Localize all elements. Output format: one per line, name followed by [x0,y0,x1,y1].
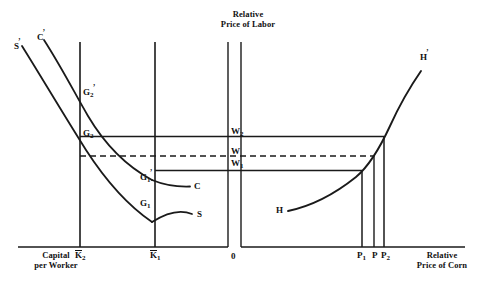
x-tick-label-K2: K2 [75,250,86,260]
bottom-left-axis-title-line1: Capital [42,250,70,260]
curve-label-C-text: C [194,181,201,191]
curve-label-S: S [197,209,202,219]
curve-S [152,212,192,222]
x-tick-label-K1: K1 [150,250,161,260]
top-axis-title-line1: Relative [233,9,264,19]
curve-C [152,180,190,187]
economics-diagram: Relative Price of Labor Capital per Work… [0,0,481,289]
x-tick-label-P1: P1 [357,250,366,260]
curve-H [288,71,421,211]
bottom-left-axis-title-line2: per Worker [34,260,77,270]
x-tick-label-P2: P2 [381,250,390,260]
point-label-G1-sub: 1 [147,202,151,210]
point-label-G1-prime: G1’ [140,169,153,182]
x-tick-label-P: P [372,250,378,260]
wage-label-W2-sub: 2 [240,130,244,138]
x-tick-label-P2-base: P [381,250,387,260]
x-tick-label-P-base: P [372,250,378,260]
wage-label-W-base: W [231,146,240,156]
point-label-G1-prime-sub: 1 [147,176,151,184]
wage-label-W2-base: W [231,126,240,136]
wage-label-W: W [231,146,240,156]
top-axis-title: Relative Price of Labor [200,10,296,30]
x-tick-label-P1-base: P [357,250,363,260]
point-label-G2-prime: G2’ [83,84,96,97]
wage-label-W1-sub: 1 [240,162,244,170]
curve-label-H-text: H [276,205,283,215]
x-tick-label-K2-sub: 2 [82,254,86,262]
curve-label-H: H [276,205,283,215]
wage-label-W2: W2 [231,126,244,136]
top-axis-title-line2: Price of Labor [221,19,275,29]
point-label-G2-sub: 2 [90,132,94,140]
diagram-canvas [0,0,481,289]
curve-label-S-text: S [197,209,202,219]
point-label-G1: G1 [140,198,151,208]
bottom-right-axis-title-line1: Relative [427,250,458,260]
bottom-right-axis-title: Relative Price of Corn [404,251,480,271]
x-tick-label-K1-sub: 1 [157,254,161,262]
wage-label-W1-base: W [231,158,240,168]
curve-label-C: C [194,181,201,191]
point-label-G2-prime-sub: 2 [90,91,94,99]
curve-label-C-prime: C’ [37,29,46,42]
x-tick-label-P2-sub: 2 [387,254,391,262]
curve-label-H-prime: H’ [420,49,430,62]
curve-label-S-prime: S’ [14,38,22,51]
x-tick-label-P1-sub: 1 [363,254,367,262]
point-label-G2: G2 [83,128,94,138]
origin-label: 0 [231,251,236,261]
bottom-right-axis-title-line2: Price of Corn [417,260,467,270]
wage-label-W1: W1 [231,158,244,168]
